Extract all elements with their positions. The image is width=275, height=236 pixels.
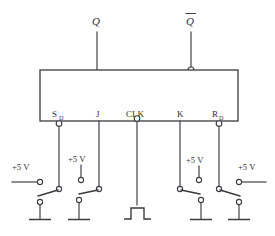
preset-branch: +5 V xyxy=(12,127,62,220)
pin-label-clear-text: R xyxy=(212,109,218,119)
circuit-canvas: Q Q S D J CLK K R D xyxy=(0,0,275,236)
output-q-label: Q xyxy=(92,15,100,27)
preset-switch-blade[interactable] xyxy=(38,190,58,196)
clear-branch: +5 V xyxy=(216,127,266,220)
preset-supply-contact[interactable] xyxy=(37,179,42,184)
output-q-not-label: Q xyxy=(186,15,194,27)
clock-pulse-icon[interactable] xyxy=(124,208,151,219)
clear-supply-contact[interactable] xyxy=(236,179,241,184)
clock-bubble-icon xyxy=(134,116,140,122)
j-supply-contact[interactable] xyxy=(78,177,83,182)
k-supply-label: +5 V xyxy=(186,155,204,165)
pin-label-k: K xyxy=(177,109,184,119)
k-branch: +5 V xyxy=(177,121,212,220)
pin-label-preset-subscript: D xyxy=(59,114,64,121)
k-switch-blade[interactable] xyxy=(181,190,200,194)
preset-supply-label: +5 V xyxy=(12,162,30,172)
j-supply-label: +5 V xyxy=(68,154,86,164)
pin-label-clear-subscript: D xyxy=(219,114,224,121)
pin-label-j: J xyxy=(96,109,100,119)
j-branch: +5 V xyxy=(68,121,102,220)
output-q: Q xyxy=(92,15,100,70)
j-ground-contact[interactable] xyxy=(76,197,81,202)
circuit-diagram: Q Q S D J CLK K R D xyxy=(0,0,275,236)
clear-bubble-icon xyxy=(216,121,222,127)
preset-bubble-icon xyxy=(56,121,62,127)
k-supply-contact[interactable] xyxy=(196,177,201,182)
output-q-not: Q xyxy=(186,14,197,74)
j-switch-blade[interactable] xyxy=(79,190,98,194)
clear-ground-contact[interactable] xyxy=(236,199,241,204)
clear-supply-label: +5 V xyxy=(238,162,256,172)
pin-label-preset-text: S xyxy=(52,109,57,119)
clock-branch xyxy=(124,122,151,220)
preset-ground-contact[interactable] xyxy=(37,199,42,204)
k-ground-contact[interactable] xyxy=(198,197,203,202)
clear-switch-blade[interactable] xyxy=(220,190,240,196)
